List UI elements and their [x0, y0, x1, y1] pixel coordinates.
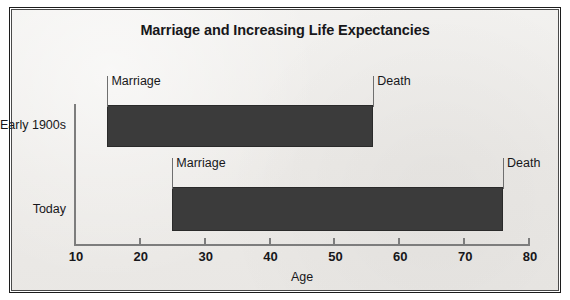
x-axis-tick-label: 60	[380, 249, 420, 264]
bar-end-label: Death	[503, 156, 540, 170]
x-axis-title: Age	[74, 270, 530, 284]
x-axis-tick	[74, 238, 76, 245]
bar-end-label: Death	[373, 74, 410, 88]
x-axis-line	[74, 244, 530, 246]
bar-today	[172, 187, 503, 231]
y-axis-category-label: Today	[0, 202, 72, 216]
y-axis-line	[74, 104, 76, 245]
x-axis-tick	[463, 238, 465, 245]
chart-title: Marriage and Increasing Life Expectancie…	[12, 22, 558, 38]
x-axis-tick	[333, 238, 335, 245]
bar-start-label: Marriage	[172, 156, 225, 170]
x-axis-tick	[139, 238, 141, 245]
x-axis-tick	[269, 238, 271, 245]
y-axis-category-label: Early 1900s	[0, 118, 72, 132]
x-axis-tick-label: 30	[186, 249, 226, 264]
x-axis-tick-label: 70	[445, 249, 485, 264]
bar-early-1900s	[107, 105, 373, 147]
x-axis-tick-label: 40	[251, 249, 291, 264]
x-axis-tick	[528, 238, 530, 245]
plot-area: 10 20 30 40 50 60 70 80 Age Early 1900s …	[12, 10, 558, 290]
x-axis-tick-label: 50	[315, 249, 355, 264]
x-axis-tick	[204, 238, 206, 245]
chart-figure: Marriage and Increasing Life Expectancie…	[11, 9, 559, 291]
x-axis-tick	[398, 238, 400, 245]
x-axis-tick-label: 80	[510, 249, 550, 264]
bar-start-label: Marriage	[107, 74, 160, 88]
x-axis-tick-label: 10	[56, 249, 96, 264]
x-axis-tick-label: 20	[121, 249, 161, 264]
